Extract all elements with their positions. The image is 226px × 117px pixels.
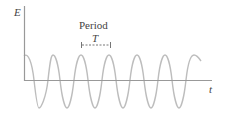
period-label: Period	[79, 19, 108, 31]
y-axis-label: E	[13, 6, 21, 18]
sine-wave	[24, 55, 201, 108]
period-symbol: T	[92, 32, 99, 44]
x-axis-label: t	[209, 83, 213, 95]
wave-diagram: E t Period T	[0, 0, 226, 117]
